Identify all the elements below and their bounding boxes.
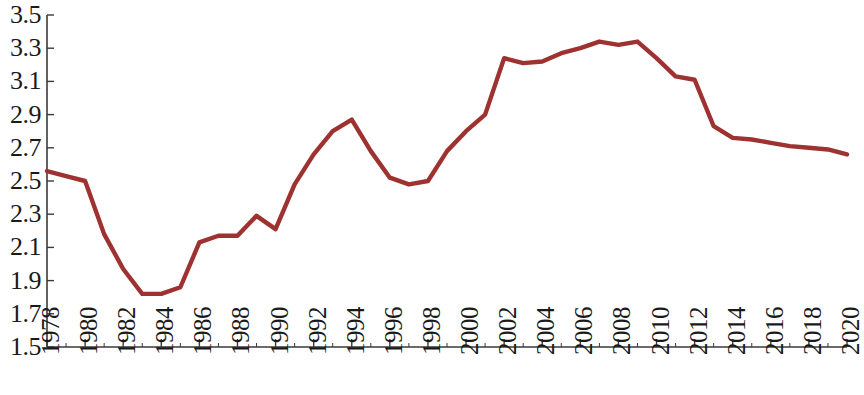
x-tick-label: 1994 bbox=[343, 307, 368, 355]
x-tick-label: 1984 bbox=[152, 307, 177, 355]
x-tick-label: 1998 bbox=[419, 307, 444, 355]
x-tick-label: 2010 bbox=[648, 307, 673, 355]
y-tick-label: 1.5 bbox=[0, 334, 41, 360]
y-tick-label: 3.3 bbox=[0, 35, 41, 61]
x-tick-label: 2018 bbox=[800, 307, 825, 355]
y-tick-label: 2.9 bbox=[0, 102, 41, 128]
x-tick-label: 1978 bbox=[38, 307, 63, 355]
x-tick-label: 2012 bbox=[686, 307, 711, 355]
x-tick-label: 1990 bbox=[267, 307, 292, 355]
data-line-1 bbox=[47, 42, 847, 294]
y-tick-label: 1.7 bbox=[0, 301, 41, 327]
x-tick-label: 2014 bbox=[724, 307, 749, 355]
axes bbox=[47, 15, 847, 347]
x-tick-label: 2004 bbox=[533, 307, 558, 355]
y-tick-label: 1.9 bbox=[0, 268, 41, 294]
x-tick-label: 2020 bbox=[838, 307, 863, 355]
x-tick-label: 2016 bbox=[762, 307, 787, 355]
x-tick-label: 1980 bbox=[76, 307, 101, 355]
x-tick-label: 2000 bbox=[457, 307, 482, 355]
y-tick-label: 2.5 bbox=[0, 168, 41, 194]
x-tick-label: 2006 bbox=[571, 307, 596, 355]
y-tick-label: 2.7 bbox=[0, 135, 41, 161]
x-tick-label: 1988 bbox=[228, 307, 253, 355]
x-tick-label: 1996 bbox=[381, 307, 406, 355]
x-tick-label: 1992 bbox=[305, 307, 330, 355]
y-tick-label: 2.1 bbox=[0, 234, 41, 260]
x-tick-label: 2008 bbox=[609, 307, 634, 355]
y-tick-label: 2.3 bbox=[0, 201, 41, 227]
y-tick-label: 3.1 bbox=[0, 68, 41, 94]
y-axis-ticks bbox=[47, 15, 54, 347]
x-tick-label: 2002 bbox=[495, 307, 520, 355]
x-tick-label: 1986 bbox=[190, 307, 215, 355]
y-tick-label: 3.5 bbox=[0, 2, 41, 28]
data-series bbox=[47, 42, 847, 294]
x-tick-label: 1982 bbox=[114, 307, 139, 355]
